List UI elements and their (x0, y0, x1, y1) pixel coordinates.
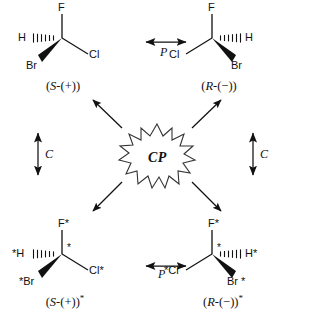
cp-arrow-up-left (93, 100, 122, 128)
cp-arrow-up-right (192, 100, 221, 128)
cp-arrow-down-left (93, 182, 122, 211)
parity-label-bottom: P (158, 268, 165, 280)
cp-arrow-down-right (192, 182, 221, 211)
conjugation-label-left: C (45, 148, 53, 160)
cp-center-label: CP (148, 151, 167, 165)
cp-symmetry-diagram: F H Br Cl (S-(+)) F Cl H Br (0, 0, 314, 316)
conjugation-label-right: C (260, 148, 268, 160)
parity-label-top: P (160, 46, 167, 58)
